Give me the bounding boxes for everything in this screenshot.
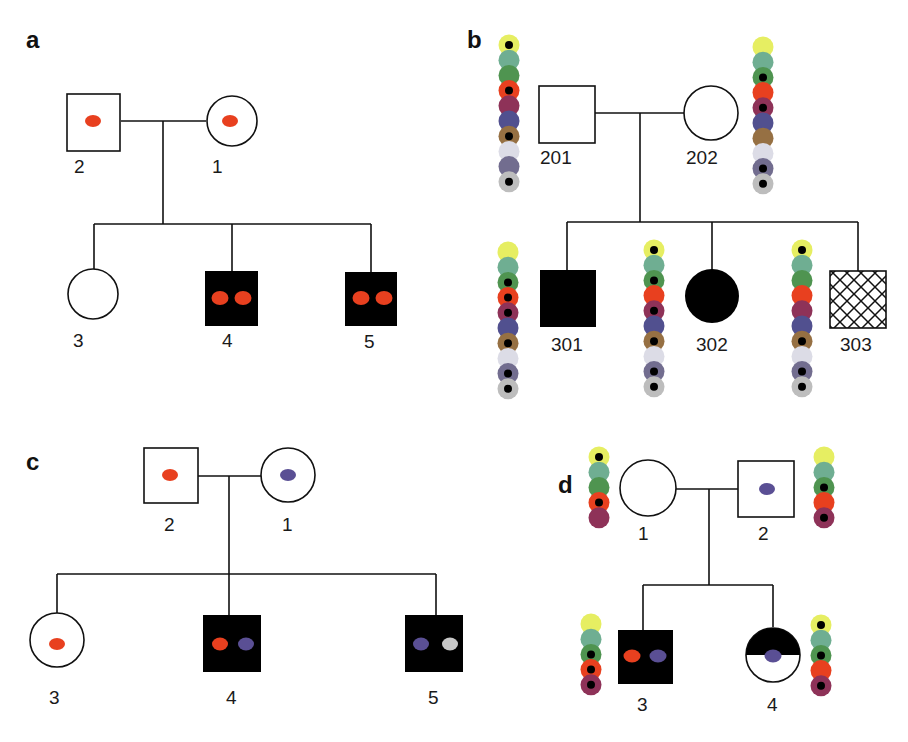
bead-dot	[759, 73, 767, 81]
id-label: 3	[73, 330, 84, 351]
id-label: 1	[212, 156, 223, 177]
bead-dot	[504, 294, 512, 302]
female-unaffected-202	[684, 86, 738, 140]
id-label: 202	[686, 147, 718, 168]
marker-dot	[376, 291, 393, 305]
bead-column-302	[644, 240, 665, 398]
bead-dot	[587, 666, 595, 674]
id-label: 1	[638, 523, 649, 544]
panel-b: 201 202 301 302 303	[498, 35, 887, 400]
bead-dot	[505, 87, 513, 95]
id-label: 303	[840, 334, 872, 355]
marker-dot	[85, 115, 101, 127]
bead-dot	[759, 104, 767, 112]
bead-dot	[817, 621, 825, 629]
id-label: 2	[758, 523, 769, 544]
id-label: 4	[226, 687, 237, 708]
panel-label-d: d	[558, 471, 573, 498]
bead-column-3	[581, 614, 602, 696]
id-label: 5	[364, 331, 375, 352]
panel-label-b: b	[467, 26, 482, 53]
bead-dot	[650, 307, 658, 315]
panel-label-a: a	[26, 26, 40, 53]
female-affected-302	[685, 269, 739, 323]
bead-dot	[650, 276, 658, 284]
bead-dot	[650, 383, 658, 391]
id-label: 2	[164, 514, 175, 535]
male-unaffected-201	[539, 86, 595, 143]
bead-dot	[504, 370, 512, 378]
bead-dot	[504, 339, 512, 347]
bead-dot	[820, 483, 828, 491]
id-label: 5	[428, 687, 439, 708]
bead-dot	[504, 309, 512, 317]
male-hatched-303	[830, 271, 886, 328]
bead-dot	[587, 681, 595, 689]
marker-dot	[442, 638, 458, 651]
id-label: 2	[74, 156, 85, 177]
bead-dot	[798, 368, 806, 376]
male-affected-301	[540, 270, 596, 327]
bead-dot	[817, 682, 825, 690]
bead-dot	[505, 178, 513, 186]
marker-dot	[212, 291, 229, 305]
id-label: 302	[696, 334, 728, 355]
female-unaffected-3	[68, 269, 118, 319]
bead-dot	[798, 246, 806, 254]
panel-d: 1 2 3 4	[581, 447, 835, 716]
bead-dot	[650, 337, 658, 345]
id-label: 301	[551, 334, 583, 355]
bead	[589, 507, 610, 528]
marker-dot	[235, 291, 252, 305]
panel-label-c: c	[26, 448, 39, 475]
bead-column-1	[589, 447, 610, 529]
bead-column-2	[814, 447, 835, 529]
bead-dot	[587, 650, 595, 658]
marker-dot	[280, 469, 296, 481]
bead-dot	[504, 278, 512, 286]
bead-dot	[798, 383, 806, 391]
marker-dot	[222, 115, 238, 127]
bead-dot	[817, 651, 825, 659]
marker-dot	[624, 650, 641, 663]
id-label: 1	[282, 514, 293, 535]
bead-dot	[595, 453, 603, 461]
bead-dot	[798, 337, 806, 345]
marker-dot	[162, 469, 178, 481]
bead-column-301	[498, 242, 519, 400]
bead-dot	[820, 514, 828, 522]
bead-column-202	[753, 37, 774, 195]
marker-dot	[650, 650, 667, 663]
pedigree-figure: a b c d 2 1 3 4 5	[0, 0, 908, 742]
bead-dot	[650, 246, 658, 254]
bead-dot	[595, 499, 603, 507]
marker-dot	[238, 638, 254, 651]
marker-dot	[765, 650, 782, 663]
bead-dot	[504, 385, 512, 393]
marker-dot	[212, 638, 228, 651]
id-label: 4	[767, 694, 778, 715]
id-label: 4	[222, 330, 233, 351]
bead-dot	[759, 180, 767, 188]
marker-dot	[353, 291, 370, 305]
bead-dot	[650, 368, 658, 376]
id-label: 3	[49, 687, 60, 708]
bead-dot	[759, 165, 767, 173]
bead-dot	[505, 132, 513, 140]
marker-dot	[413, 638, 429, 651]
id-label: 3	[637, 694, 648, 715]
marker-dot	[49, 638, 65, 650]
bead-column-201	[499, 35, 520, 193]
female-unaffected-1	[620, 460, 676, 516]
female-half-affected-4	[746, 628, 800, 682]
id-label: 201	[540, 147, 572, 168]
panel-a: 2 1 3 4 5	[67, 94, 397, 352]
panel-c: 2 1 3 4 5	[30, 448, 463, 708]
marker-dot	[759, 483, 775, 495]
bead-column-4	[811, 615, 832, 697]
bead-dot	[505, 41, 513, 49]
bead-column-303	[792, 240, 813, 398]
